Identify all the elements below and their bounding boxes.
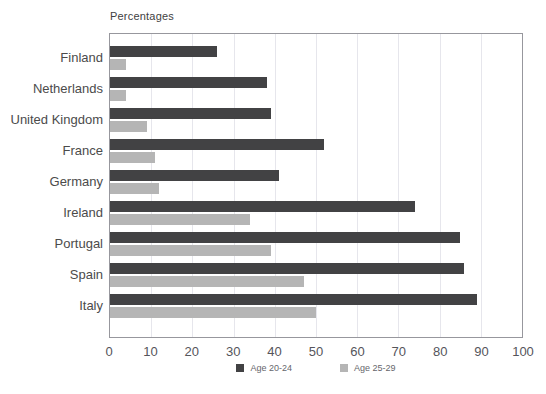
x-tick-70: 70	[392, 344, 406, 359]
bar-age-20-24-france	[110, 139, 324, 150]
bar-row-germany	[110, 170, 522, 201]
chart-root: Percentages FinlandNetherlandsUnited Kin…	[0, 0, 546, 394]
bar-age-20-24-ireland	[110, 201, 415, 212]
category-labels: FinlandNetherlandsUnited KingdomFranceGe…	[0, 45, 103, 324]
bar-row-france	[110, 139, 522, 170]
legend-swatch-age-20-24	[236, 364, 244, 372]
legend-item-age-25-29: Age 25-29	[340, 363, 396, 373]
x-tick-20: 20	[185, 344, 199, 359]
x-tick-60: 60	[350, 344, 364, 359]
bar-age-25-29-italy	[110, 307, 316, 318]
bar-age-25-29-spain	[110, 276, 304, 287]
bar-age-25-29-netherlands	[110, 90, 126, 101]
legend-label-age-20-24: Age 20-24	[250, 363, 292, 373]
category-label-spain: Spain	[0, 262, 103, 286]
bar-row-united-kingdom	[110, 108, 522, 139]
category-label-italy: Italy	[0, 293, 103, 317]
legend-swatch-age-25-29	[340, 364, 348, 372]
bar-age-25-29-ireland	[110, 214, 250, 225]
category-label-portugal: Portugal	[0, 231, 103, 255]
x-axis: 0102030405060708090100	[109, 344, 523, 360]
x-tick-90: 90	[474, 344, 488, 359]
x-tick-40: 40	[267, 344, 281, 359]
category-label-france: France	[0, 138, 103, 162]
bar-row-portugal	[110, 232, 522, 263]
plot-area	[109, 33, 523, 338]
bar-age-20-24-netherlands	[110, 77, 267, 88]
legend-label-age-25-29: Age 25-29	[354, 363, 396, 373]
bar-age-20-24-united-kingdom	[110, 108, 271, 119]
bar-age-25-29-united-kingdom	[110, 121, 147, 132]
bar-age-25-29-germany	[110, 183, 159, 194]
bar-rows	[110, 46, 522, 325]
category-label-finland: Finland	[0, 45, 103, 69]
bar-age-20-24-finland	[110, 46, 217, 57]
bar-age-25-29-france	[110, 152, 155, 163]
bar-age-20-24-spain	[110, 263, 464, 274]
legend: Age 20-24Age 25-29	[109, 363, 523, 373]
bar-row-spain	[110, 263, 522, 294]
bar-age-25-29-portugal	[110, 245, 271, 256]
bar-age-20-24-portugal	[110, 232, 460, 243]
bar-row-finland	[110, 46, 522, 77]
bar-age-20-24-italy	[110, 294, 477, 305]
chart-title: Percentages	[110, 10, 174, 22]
x-tick-80: 80	[433, 344, 447, 359]
x-tick-10: 10	[143, 344, 157, 359]
legend-item-age-20-24: Age 20-24	[236, 363, 292, 373]
bar-row-netherlands	[110, 77, 522, 108]
bar-row-italy	[110, 294, 522, 325]
bar-age-20-24-germany	[110, 170, 279, 181]
x-tick-30: 30	[226, 344, 240, 359]
x-tick-0: 0	[105, 344, 112, 359]
x-tick-100: 100	[512, 344, 534, 359]
x-tick-50: 50	[309, 344, 323, 359]
bar-row-ireland	[110, 201, 522, 232]
category-label-ireland: Ireland	[0, 200, 103, 224]
bar-age-25-29-finland	[110, 59, 126, 70]
category-label-germany: Germany	[0, 169, 103, 193]
category-label-united-kingdom: United Kingdom	[0, 107, 103, 131]
category-label-netherlands: Netherlands	[0, 76, 103, 100]
